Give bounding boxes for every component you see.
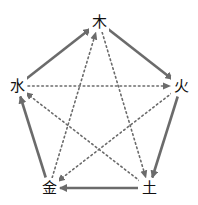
generating-edge-metal-to-water bbox=[20, 97, 45, 178]
node-earth: 土 bbox=[139, 178, 159, 198]
generating-edge-wood-to-fire bbox=[108, 29, 173, 79]
node-wood: 木 bbox=[89, 12, 109, 32]
generating-edge-water-to-wood bbox=[26, 29, 91, 79]
node-metal: 金 bbox=[39, 178, 59, 198]
node-fire: 火 bbox=[171, 76, 191, 96]
node-water: 水 bbox=[7, 76, 27, 96]
five-elements-diagram: 木 火 土 金 水 bbox=[0, 0, 198, 205]
generating-edge-fire-to-earth bbox=[152, 97, 177, 178]
